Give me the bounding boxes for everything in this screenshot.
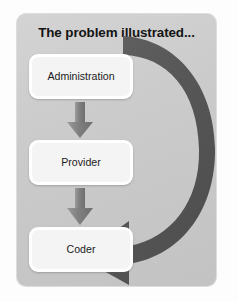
- node-coder-label: Coder: [67, 244, 96, 255]
- connector-admin-to-provider: [67, 102, 93, 138]
- diagram-panel: The problem illustrated...: [17, 14, 216, 286]
- node-administration-label: Administration: [47, 71, 114, 82]
- node-coder[interactable]: Coder: [29, 227, 133, 272]
- connector-provider-to-coder: [67, 188, 93, 225]
- node-provider-label: Provider: [61, 157, 100, 168]
- node-administration[interactable]: Administration: [29, 54, 133, 99]
- slide-canvas: The problem illustrated...: [0, 0, 238, 302]
- node-provider[interactable]: Provider: [29, 140, 133, 185]
